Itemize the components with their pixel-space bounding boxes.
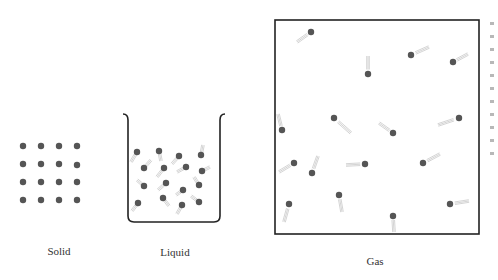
gas-panel — [275, 20, 479, 234]
particle — [38, 197, 44, 203]
particle — [279, 127, 285, 133]
motion-trail — [346, 166, 360, 167]
particle — [20, 143, 26, 149]
particle — [56, 197, 62, 203]
particle — [161, 165, 167, 171]
particle — [199, 168, 205, 174]
motion-trail — [456, 53, 467, 59]
solid-label: Solid — [47, 245, 70, 257]
motion-trail — [395, 220, 396, 232]
clipped-text-fragment — [490, 35, 494, 38]
particle — [196, 182, 202, 188]
particle — [56, 179, 62, 185]
motion-trail — [278, 164, 289, 171]
clipped-text-fragment — [490, 152, 494, 155]
motion-trail — [379, 123, 390, 131]
particle — [196, 199, 202, 205]
motion-trail — [298, 36, 309, 44]
particle — [38, 161, 44, 167]
motion-trail — [438, 120, 454, 125]
particle — [390, 213, 396, 219]
particle — [331, 115, 337, 121]
particle — [156, 148, 162, 154]
particle — [176, 153, 182, 159]
particle — [74, 179, 80, 185]
particle — [420, 160, 426, 166]
particle — [408, 52, 414, 58]
clipped-text-fragment — [490, 48, 494, 51]
motion-trail — [438, 119, 454, 124]
particle — [38, 179, 44, 185]
motion-trail — [438, 121, 454, 126]
motion-trail — [415, 46, 429, 52]
particle — [74, 162, 80, 168]
motion-trail — [427, 153, 440, 160]
motion-trail — [380, 122, 391, 130]
motion-trail — [427, 154, 440, 161]
particle — [291, 160, 297, 166]
particle — [179, 202, 185, 208]
particle — [135, 200, 141, 206]
particle — [308, 29, 314, 35]
particle — [180, 187, 186, 193]
particle — [38, 143, 44, 149]
solid-panel — [20, 143, 80, 203]
gas-label: Gas — [366, 255, 383, 267]
motion-trail — [279, 165, 290, 172]
motion-trail — [338, 122, 351, 133]
particle — [56, 161, 62, 167]
motion-trail — [416, 48, 430, 54]
particle — [286, 201, 292, 207]
motion-trail — [457, 55, 468, 61]
motion-trail — [297, 35, 308, 43]
motion-trail — [428, 155, 441, 162]
clipped-text-fragment — [490, 87, 494, 90]
clipped-text-fragment — [490, 74, 494, 77]
particle — [20, 179, 26, 185]
clipped-text-fragment — [490, 139, 494, 142]
motion-trail — [280, 166, 291, 173]
particle — [362, 161, 368, 167]
clipped-text-fragment — [490, 22, 494, 25]
particle — [450, 59, 456, 65]
liquid-panel — [123, 114, 225, 222]
particle-diagram — [0, 0, 498, 280]
motion-trail — [393, 220, 394, 232]
motion-trail — [346, 164, 360, 165]
clipped-text-fragment — [490, 61, 494, 64]
particle — [160, 195, 166, 201]
particle — [74, 143, 80, 149]
motion-trail — [457, 54, 468, 60]
clipped-text-fragment — [490, 113, 494, 116]
particle — [447, 201, 453, 207]
motion-trail — [346, 163, 360, 164]
particle — [183, 164, 189, 170]
particle — [390, 130, 396, 136]
particle — [134, 149, 140, 155]
particle — [456, 115, 462, 121]
particle — [309, 170, 315, 176]
states-of-matter-figure: Solid Liquid Gas — [0, 0, 498, 280]
motion-trail — [392, 220, 393, 232]
motion-trail — [416, 47, 430, 53]
particle — [163, 180, 169, 186]
motion-trail — [378, 124, 389, 131]
particle — [20, 161, 26, 167]
particle — [336, 192, 342, 198]
clipped-text-fragment — [490, 100, 494, 103]
motion-trail — [296, 33, 307, 41]
particle — [141, 165, 147, 171]
particle — [198, 152, 204, 158]
particle — [365, 71, 371, 77]
liquid-label: Liquid — [160, 246, 189, 258]
clipped-text-fragment — [490, 126, 494, 129]
particle — [74, 197, 80, 203]
particle — [141, 183, 147, 189]
particle — [20, 197, 26, 203]
particle — [56, 143, 62, 149]
